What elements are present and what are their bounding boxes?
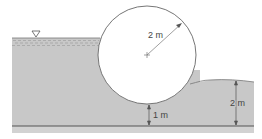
downstream-depth-label: 2 m <box>230 98 245 108</box>
free-surface-triangle-icon <box>32 31 40 37</box>
upstream-water <box>12 38 112 126</box>
radius-label: 2 m <box>148 30 163 40</box>
cylinder-diagram: 2 m 1 m 2 m <box>0 0 262 139</box>
gap-label: 1 m <box>153 110 168 120</box>
ground <box>12 126 254 133</box>
